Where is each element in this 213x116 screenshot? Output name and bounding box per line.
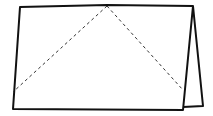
front-panel: [13, 5, 193, 110]
folded-paper-diagram: [0, 0, 213, 116]
